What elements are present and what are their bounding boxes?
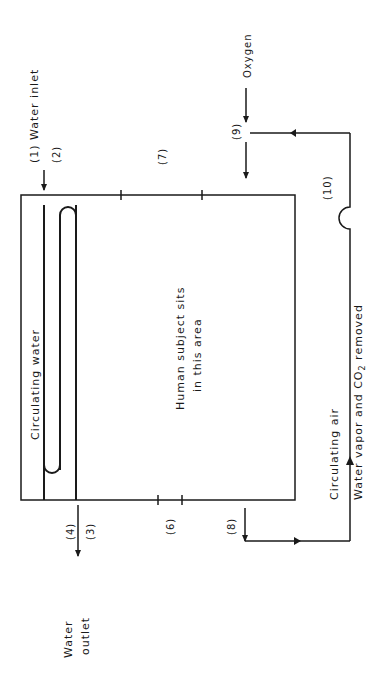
point-2-label: (2) <box>51 146 62 163</box>
human-subject-label-2: in this area <box>191 318 204 392</box>
water-outlet-label-2: outlet <box>79 617 92 655</box>
water-coil-loop <box>60 207 76 470</box>
calorimeter-diagram: (1) Water inlet (2) (7) (9) (10) Oxygen … <box>0 0 384 676</box>
water-outlet-label-1: Water <box>62 620 75 658</box>
circulating-water-label: Circulating water <box>29 329 42 440</box>
air-bottom-arrowhead <box>294 537 301 545</box>
water-inlet-label: (1) Water inlet <box>28 69 41 163</box>
point-9-label: (9) <box>231 123 242 140</box>
water-coil-bottom <box>44 465 60 473</box>
human-subject-label-1: Human subject sits <box>174 287 187 410</box>
removal-label: Water vapor and CO2 removed <box>352 304 367 500</box>
point-7-label: (7) <box>157 148 168 165</box>
oxygen-label: Oxygen <box>242 33 253 78</box>
removal-label-suffix: removed <box>352 304 365 364</box>
circulating-air-label: Circulating air <box>328 408 341 500</box>
air-return-arrowhead <box>290 129 296 137</box>
point-8-label: (8) <box>226 518 237 535</box>
point-3-label: (3) <box>85 523 96 540</box>
point-6-label: (6) <box>165 518 176 535</box>
point-4-label: (4) <box>65 523 76 540</box>
point-10-label: (10) <box>322 175 333 200</box>
removal-label-prefix: Water vapor and CO <box>352 370 365 500</box>
chamber-wall <box>21 195 295 500</box>
